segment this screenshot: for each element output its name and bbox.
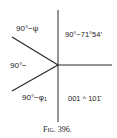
label-left: 90°− [10, 62, 27, 70]
label-lower-right: 001 ^ 101̄ [68, 95, 101, 103]
figure-caption: Fig. 396. [43, 126, 72, 134]
label-lower-left: 90°−φ₁ [22, 94, 47, 102]
label-upper-right: 90°−71°54′ [65, 31, 102, 39]
label-upper-left: 90°−ψ [16, 25, 38, 33]
